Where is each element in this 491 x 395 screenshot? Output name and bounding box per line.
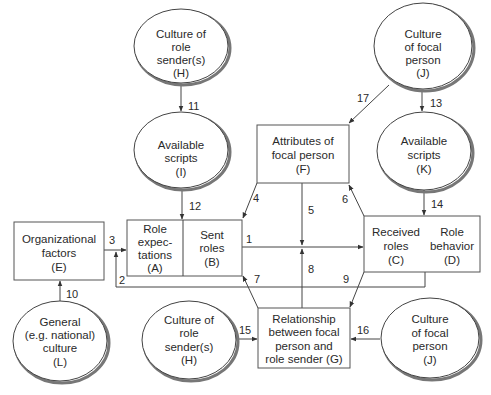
svg-text:Role: Role [440,226,464,238]
svg-text:(L): (L) [53,356,67,368]
svg-text:General: General [40,316,81,328]
svg-text:between focal: between focal [269,326,340,338]
svg-text:Attributes of: Attributes of [272,135,334,147]
node-general-national-culture: General (e.g. national) culture (L) [13,301,109,383]
node-relationship-focal-role-sender: Relationship between focal person and ro… [258,308,350,368]
svg-text:culture: culture [43,342,78,354]
node-organizational-factors: Organizational factors (E) [14,222,104,280]
svg-text:(H): (H) [173,67,189,79]
svg-text:person: person [405,54,440,66]
edge-label-5: 5 [308,204,314,216]
svg-text:Received: Received [372,226,420,238]
svg-text:(B): (B) [204,256,220,268]
svg-text:role sender (G): role sender (G) [265,353,343,365]
svg-text:tations: tations [138,249,172,261]
svg-text:Culture of: Culture of [164,314,215,326]
svg-text:(e.g. national): (e.g. national) [25,329,95,341]
svg-text:Culture of: Culture of [156,28,207,40]
svg-text:sender(s): sender(s) [157,54,206,66]
edge-label-7: 7 [254,273,260,285]
node-culture-role-senders-bottom: Culture of role sender(s) (H) [142,301,238,381]
svg-text:Relationship: Relationship [272,313,335,325]
edge-6 [349,185,364,216]
svg-text:of focal: of focal [404,41,441,53]
edge-label-2: 2 [119,274,125,286]
edge-label-15: 15 [239,324,251,336]
svg-text:sender(s): sender(s) [165,341,214,353]
svg-text:role: role [179,327,198,339]
svg-text:Sent: Sent [200,229,224,241]
svg-text:Available: Available [158,139,204,151]
svg-text:(H): (H) [181,354,197,366]
edge-label-10: 10 [66,288,78,300]
svg-text:(E): (E) [51,261,67,273]
svg-text:(F): (F) [296,163,311,175]
edge-label-3: 3 [109,234,115,246]
svg-text:expec-: expec- [138,236,173,248]
node-available-scripts-k: Available scripts (K) [377,112,473,192]
svg-text:scripts: scripts [407,149,440,161]
svg-text:(C): (C) [388,254,404,266]
svg-text:Role: Role [143,223,167,235]
edge-9 [350,272,364,307]
svg-text:Organizational: Organizational [22,233,96,245]
svg-text:(K): (K) [416,163,432,175]
node-available-scripts-i: Available scripts (I) [134,112,230,190]
node-role-expectations-sent-roles: Role expec- tations (A) Sent roles (B) [127,220,242,276]
node-culture-role-senders-top: Culture of role sender(s) (H) [134,9,230,85]
svg-text:(J): (J) [416,67,430,79]
edge-label-1: 1 [246,233,252,245]
edge-label-8: 8 [308,263,314,275]
svg-text:(I): (I) [176,166,187,178]
svg-text:role: role [171,41,190,53]
edge-label-11: 11 [188,100,199,112]
edge-17 [349,85,389,123]
svg-text:factors: factors [42,247,77,259]
node-attributes-focal-person: Attributes of focal person (F) [257,125,349,183]
svg-text:roles: roles [384,240,409,252]
svg-text:Culture: Culture [404,28,441,40]
edge-label-4: 4 [253,192,259,204]
svg-text:roles: roles [200,242,225,254]
svg-text:Culture: Culture [411,313,448,325]
edge-label-13: 13 [430,97,442,109]
svg-text:focal person: focal person [272,149,335,161]
edge-label-17: 17 [357,92,369,104]
svg-text:of focal: of focal [411,327,448,339]
edge-label-16: 16 [357,324,369,336]
svg-text:behavior: behavior [430,240,474,252]
edge-label-9: 9 [343,273,349,285]
node-culture-focal-person-top: Culture of focal person (J) [374,3,474,91]
svg-text:(D): (D) [444,254,460,266]
svg-text:(A): (A) [147,262,163,274]
svg-text:Available: Available [401,135,447,147]
edge-label-14: 14 [431,198,443,210]
svg-text:(J): (J) [423,354,437,366]
edge-label-6: 6 [342,193,348,205]
svg-text:person and: person and [275,340,333,352]
role-episode-diagram: 11 12 13 17 14 4 5 6 1 8 7 9 2 3 10 15 1… [0,0,491,395]
node-received-roles-role-behavior: Received roles (C) Role behavior (D) [364,216,480,272]
svg-text:scripts: scripts [164,152,197,164]
node-culture-focal-person-bottom: Culture of focal person (J) [381,298,481,380]
edge-label-12: 12 [189,200,201,212]
svg-text:person: person [412,340,447,352]
